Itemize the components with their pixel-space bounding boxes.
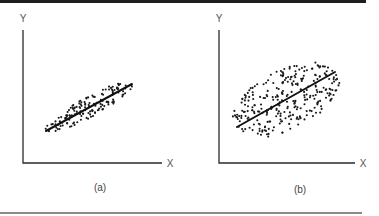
data-point [286,95,288,97]
data-point [244,97,246,99]
data-point [84,104,86,106]
data-point [321,91,323,93]
data-point [241,102,243,104]
data-point [269,120,271,122]
data-point [306,93,308,95]
data-point [102,89,104,91]
y-axis-label-b: Y [216,13,223,24]
data-point [267,121,269,123]
data-point [129,88,131,90]
data-point [57,128,59,130]
data-point [264,97,266,99]
data-point [261,129,263,131]
data-point [334,90,336,92]
data-point [306,114,308,116]
data-point [276,109,278,111]
data-point [232,115,234,117]
data-point [256,119,258,121]
data-point [296,116,298,118]
data-point [60,125,62,127]
data-point [237,118,239,120]
data-point [333,78,335,80]
top-border [0,0,366,3]
data-point [279,115,281,117]
data-point [333,81,335,83]
data-point [292,100,294,102]
data-point [238,115,240,117]
data-point [113,89,115,91]
data-point [122,90,124,92]
data-point [76,106,78,108]
data-point [259,130,261,132]
data-point [303,70,305,72]
data-point [103,105,105,107]
data-point [73,110,75,112]
data-point [291,91,293,93]
data-point [287,81,289,83]
data-point [306,98,308,100]
data-point [281,131,283,133]
data-point [327,67,329,69]
data-point [267,90,269,92]
data-point [253,104,255,106]
data-point [62,124,64,126]
data-point [335,79,337,81]
data-point [251,106,253,108]
data-point [312,115,314,117]
data-point [235,116,237,118]
data-point [260,108,262,110]
data-point [304,66,306,68]
data-point [252,87,254,89]
data-point [296,65,298,67]
data-point [288,123,290,125]
data-point [303,75,305,77]
data-point [252,129,254,131]
data-point [102,94,104,96]
data-point [107,103,109,105]
data-point [303,103,305,105]
data-point [324,66,326,68]
data-point [101,108,103,110]
data-point [276,87,278,89]
data-point [297,118,299,120]
data-point [252,98,254,100]
data-point [74,124,76,126]
data-point [78,102,80,104]
data-point [247,92,249,94]
data-point [252,91,254,93]
data-point [266,95,268,97]
data-point [45,128,47,130]
data-point [324,72,326,74]
data-point [247,110,249,112]
data-point [323,87,325,89]
data-point [67,111,69,113]
data-point [277,99,279,101]
data-point [290,76,292,78]
data-point [287,106,289,108]
data-point [258,123,260,125]
data-point [281,71,283,73]
data-point [303,94,305,96]
data-point [284,79,286,81]
data-point [300,78,302,80]
data-point [294,75,296,77]
data-point [258,111,260,113]
data-point [316,91,318,93]
data-point [278,110,280,112]
data-point [322,65,324,67]
regression-line-a [46,84,132,131]
data-point [65,114,67,116]
data-point [72,104,74,106]
data-point [267,136,269,138]
data-point [245,95,247,97]
data-point [325,89,327,91]
data-point [289,111,291,113]
data-point [304,96,306,98]
data-point [294,100,296,102]
data-point [80,119,82,121]
data-point [309,95,311,97]
data-point [90,116,92,118]
data-point [89,110,91,112]
data-point [329,92,331,94]
data-point [250,87,252,89]
